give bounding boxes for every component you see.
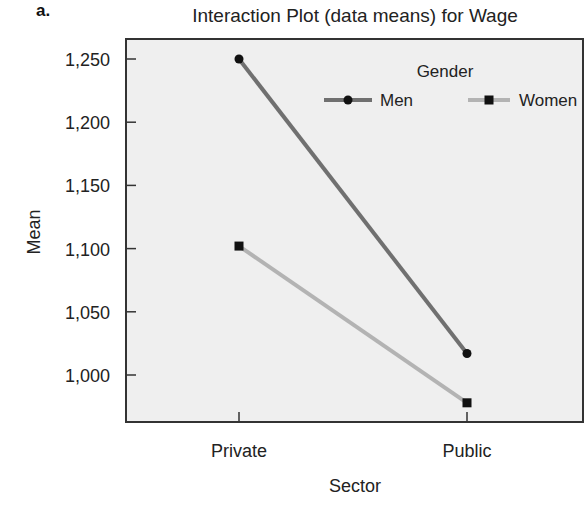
- x-tick-label-private: Private: [211, 441, 267, 461]
- data-point-women: [235, 242, 244, 251]
- y-tick-label: 1,200: [65, 113, 110, 133]
- data-point-men: [235, 55, 244, 64]
- y-tick-label: 1,250: [65, 50, 110, 70]
- legend-circle-marker-icon: [344, 96, 353, 105]
- x-axis-title: Sector: [329, 476, 381, 496]
- data-point-women: [463, 398, 472, 407]
- y-tick-label: 1,100: [65, 240, 110, 260]
- legend-label: Men: [380, 91, 413, 110]
- legend-square-marker-icon: [485, 96, 494, 105]
- interaction-plot: Interaction Plot (data means) for Wage 1…: [0, 0, 588, 508]
- legend-title: Gender: [417, 62, 474, 81]
- chart-title: Interaction Plot (data means) for Wage: [192, 5, 518, 26]
- y-tick-label: 1,150: [65, 176, 110, 196]
- plot-area: [126, 39, 583, 422]
- x-tick-label-public: Public: [442, 441, 491, 461]
- y-tick-label: 1,050: [65, 303, 110, 323]
- y-tick-label: 1,000: [65, 366, 110, 386]
- legend-label: Women: [519, 91, 577, 110]
- data-point-men: [463, 349, 472, 358]
- y-axis-title: Mean: [24, 209, 44, 254]
